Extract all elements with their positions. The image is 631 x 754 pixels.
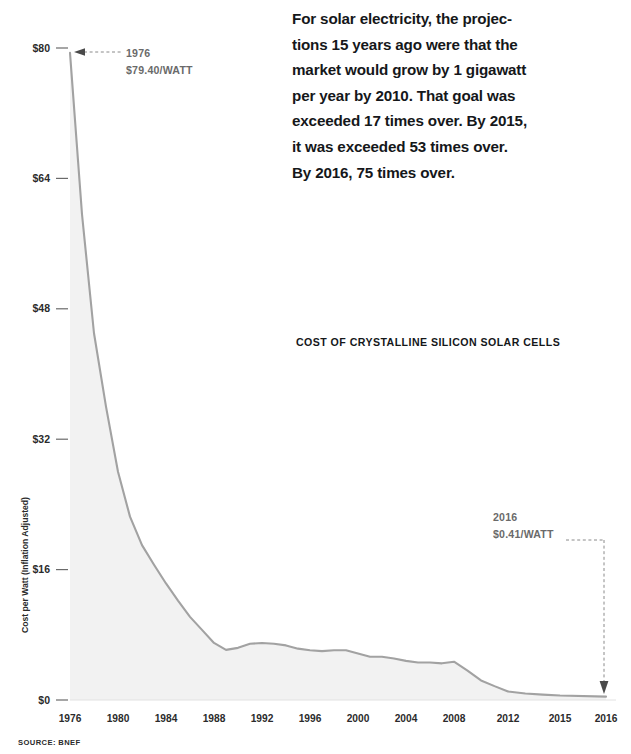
y-tick-label: $0	[4, 694, 50, 706]
area-fill	[70, 53, 606, 700]
x-tick-label: 2008	[424, 713, 484, 724]
annotation-start: 1976 $79.40/WATT	[126, 45, 193, 79]
y-tick-label: $16	[4, 563, 50, 575]
annotation-end-year: 2016	[493, 509, 554, 526]
end-leader-arrow-icon	[600, 681, 609, 694]
annotation-end: 2016 $0.41/WATT	[493, 509, 554, 543]
y-tick-label: $80	[4, 42, 50, 54]
y-tick-label: $64	[4, 172, 50, 184]
y-tick-label: $48	[4, 302, 50, 314]
x-tick-label: 2012	[478, 713, 538, 724]
source-note: SOURCE: BNEF	[18, 738, 81, 747]
y-tick-label: $32	[4, 433, 50, 445]
start-leader-arrow-icon	[74, 48, 85, 56]
cost-per-watt-area-chart	[0, 0, 631, 754]
annotation-start-value: $79.40/WATT	[126, 62, 193, 79]
annotation-end-value: $0.41/WATT	[493, 526, 554, 543]
x-tick-label: 2016	[576, 713, 631, 724]
annotation-start-year: 1976	[126, 45, 193, 62]
